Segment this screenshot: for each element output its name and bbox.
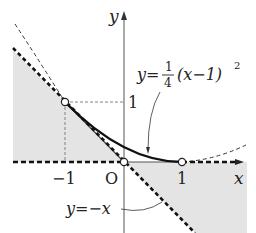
y-axis-label: y xyxy=(108,6,119,26)
parabola-frac-num: 1 xyxy=(165,60,173,74)
x-tick-neg1: −1 xyxy=(52,169,76,188)
origin-label: O xyxy=(105,169,118,188)
parabola-leader-arrow xyxy=(146,147,150,154)
point-1-0 xyxy=(178,158,185,165)
parabola-eq-prefix: y= xyxy=(136,65,159,84)
x-tick-1: 1 xyxy=(177,169,187,188)
line-equation: y=−x xyxy=(65,199,111,218)
y-axis-arrow xyxy=(121,11,127,20)
point-origin xyxy=(120,158,127,165)
graph: y x O −1 1 1 y= 1 4 (x−1) 2 y=−x xyxy=(0,0,256,233)
parabola-dashed-right xyxy=(182,145,246,162)
point-neg1-1 xyxy=(61,98,68,105)
parabola-eq-suffix: (x−1) xyxy=(177,65,222,84)
parabola-leader xyxy=(148,92,160,150)
parabola-exponent: 2 xyxy=(234,60,240,71)
parabola-frac-den: 4 xyxy=(164,76,172,90)
parabola-equation: y= 1 4 (x−1) 2 xyxy=(136,60,240,90)
line-leader xyxy=(121,202,162,210)
x-axis-label: x xyxy=(234,168,244,188)
y-tick-1: 1 xyxy=(128,93,138,112)
